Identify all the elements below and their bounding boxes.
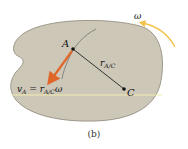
point-a-dot: [71, 47, 75, 51]
point-a-label: A: [61, 38, 69, 49]
rigid-body-shape: [11, 20, 163, 121]
rigid-body-diagram: A C rA/C vA = rA/Cω ω (b): [0, 0, 188, 149]
point-c-dot: [122, 87, 126, 91]
angular-velocity-label: ω: [134, 11, 142, 21]
point-c-label: C: [127, 87, 135, 98]
figure-caption: (b): [88, 129, 101, 139]
